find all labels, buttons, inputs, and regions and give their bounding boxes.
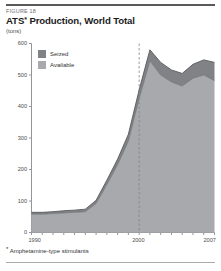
- y-axis-tick-label: 300: [2, 135, 27, 141]
- y-axis-tick-label: 0: [2, 229, 27, 235]
- y-axis-tick-label: 100: [2, 198, 27, 204]
- y-axis-tick-label: 500: [2, 72, 27, 78]
- x-axis-tick-label: 2007: [204, 237, 216, 243]
- x-axis-tick-label: 1990: [29, 237, 41, 243]
- chart-canvas: [0, 0, 221, 271]
- figure-footnote: * Amphetamine-type stimulants: [6, 248, 89, 254]
- legend-item-available: Available: [38, 61, 74, 69]
- y-axis-tick-label: 200: [2, 166, 27, 172]
- chart-legend: Seized Available: [38, 50, 74, 69]
- footnote-text: Amphetamine-type stimulants: [8, 248, 88, 254]
- legend-swatch-seized-icon: [38, 50, 46, 58]
- y-axis-tick-label: 600: [2, 40, 27, 46]
- figure-panel: FIGURE 18 ATS* Production, World Total (…: [0, 0, 221, 271]
- legend-swatch-available-icon: [38, 61, 46, 69]
- area-series-group: [32, 50, 215, 233]
- legend-label-available: Available: [50, 61, 74, 69]
- legend-label-seized: Seized: [50, 50, 68, 58]
- bottom-divider: [6, 262, 215, 263]
- legend-item-seized: Seized: [38, 50, 74, 58]
- x-axis-tick-label: 2000: [132, 237, 144, 243]
- y-axis-tick-label: 400: [2, 103, 27, 109]
- footnote-marker: *: [6, 246, 8, 252]
